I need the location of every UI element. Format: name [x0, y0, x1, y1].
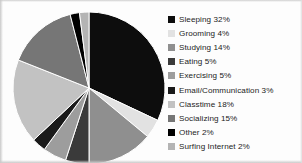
legend-item[interactable]: Grooming 4% — [168, 26, 300, 40]
pie-svg — [8, 8, 168, 163]
legend-swatch-sleeping — [168, 16, 175, 23]
legend-item[interactable]: Socializing 15% — [168, 111, 300, 125]
legend-swatch-classtime — [168, 101, 175, 108]
legend-item-label: Socializing 15% — [179, 114, 237, 123]
legend-item[interactable]: Eating 5% — [168, 55, 300, 69]
legend-item-label: Studying 14% — [179, 43, 230, 52]
legend-item-label: Surfing Internet 2% — [179, 142, 250, 151]
legend-swatch-socializing — [168, 115, 175, 122]
scan-edge-top — [0, 0, 302, 2]
legend-item[interactable]: Surfing Internet 2% — [168, 140, 300, 154]
legend-swatch-eating — [168, 58, 175, 65]
legend-item[interactable]: Sleeping 32% — [168, 12, 300, 26]
legend-item-label: Other 2% — [179, 128, 214, 137]
legend-item[interactable]: Email/Communication 3% — [168, 83, 300, 97]
legend-item-label: Email/Communication 3% — [179, 86, 273, 95]
legend-swatch-email — [168, 87, 175, 94]
scan-edge-right — [300, 0, 302, 163]
pie-chart-figure: Sleeping 32%Grooming 4%Studying 14%Eatin… — [0, 0, 302, 163]
legend-item[interactable]: Classtime 18% — [168, 97, 300, 111]
pie-plot-area — [8, 8, 168, 163]
legend-item[interactable]: Studying 14% — [168, 40, 300, 54]
legend-item-label: Exercising 5% — [179, 71, 231, 80]
legend-item-label: Sleeping 32% — [179, 15, 230, 24]
legend-swatch-exercising — [168, 72, 175, 79]
scan-edge-left — [0, 0, 3, 163]
legend-item-label: Classtime 18% — [179, 100, 234, 109]
legend-swatch-surfing-internet — [168, 143, 175, 150]
chart-legend: Sleeping 32%Grooming 4%Studying 14%Eatin… — [168, 12, 300, 154]
legend-swatch-studying — [168, 44, 175, 51]
legend-item-label: Grooming 4% — [179, 29, 229, 38]
legend-item[interactable]: Exercising 5% — [168, 69, 300, 83]
legend-swatch-grooming — [168, 30, 175, 37]
legend-item-label: Eating 5% — [179, 57, 217, 66]
legend-swatch-other — [168, 129, 175, 136]
legend-item[interactable]: Other 2% — [168, 126, 300, 140]
